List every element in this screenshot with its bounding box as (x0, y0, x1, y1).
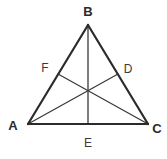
median-AD (28, 74, 118, 124)
geometry-figure: B F D A C E (0, 0, 167, 159)
point-label-B: B (83, 5, 93, 18)
point-label-A: A (8, 119, 18, 132)
side-BC (88, 25, 148, 124)
side-AB (28, 25, 88, 124)
point-label-E: E (84, 137, 92, 149)
point-label-C: C (152, 122, 162, 135)
point-label-D: D (124, 63, 133, 75)
median-CF (58, 74, 148, 124)
point-label-F: F (41, 62, 48, 74)
